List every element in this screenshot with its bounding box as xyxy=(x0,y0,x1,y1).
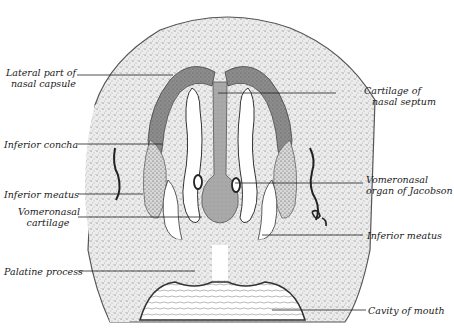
label-line: Palatine process xyxy=(4,266,77,277)
label-lateral-part-of-nasal-capsule: Lateral part of nasal capsule xyxy=(4,67,76,89)
label-line: Inferior meatus xyxy=(4,189,77,200)
label-inferior-meatus-left: Inferior meatus xyxy=(4,189,77,200)
right-vomeronasal-organ xyxy=(232,178,240,192)
label-line: Inferior meatus xyxy=(367,230,442,241)
label-line: Vomeronasal xyxy=(366,174,453,185)
label-line: Cavity of mouth xyxy=(368,305,445,316)
label-line: organ of Jacobson xyxy=(366,185,453,196)
label-vomeronasal-cartilage: Vomeronasal cartilage xyxy=(18,206,78,228)
label-line: Inferior concha xyxy=(4,139,77,150)
label-line: Lateral part of xyxy=(4,67,76,78)
label-line: Vomeronasal xyxy=(18,206,78,217)
label-cartilage-of-nasal-septum: Cartilage of nasal septum xyxy=(364,85,436,107)
cavity-of-mouth xyxy=(140,282,305,320)
label-line: cartilage xyxy=(18,217,78,228)
left-vomeronasal-organ xyxy=(194,175,202,189)
label-vomeronasal-organ-of-jacobson: Vomeronasal organ of Jacobson xyxy=(366,174,453,196)
label-cavity-of-mouth: Cavity of mouth xyxy=(368,305,445,316)
label-palatine-process: Palatine process xyxy=(4,266,77,277)
label-line: Cartilage of xyxy=(364,85,436,96)
label-inferior-meatus-right: Inferior meatus xyxy=(367,230,442,241)
midline-gap xyxy=(212,245,228,280)
nasal-section-diagram xyxy=(0,0,454,328)
label-inferior-concha: Inferior concha xyxy=(4,139,77,150)
label-line: nasal septum xyxy=(364,96,436,107)
label-line: nasal capsule xyxy=(4,78,76,89)
